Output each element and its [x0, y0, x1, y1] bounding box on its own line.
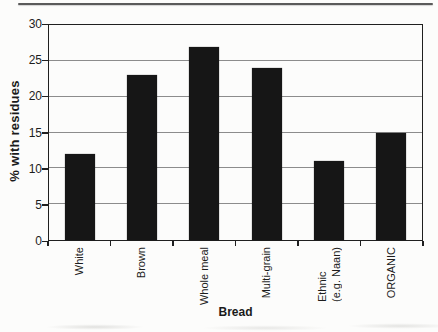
x-category-labels: WhiteBrownWhole mealMulti-grainEthnic (e…	[48, 247, 423, 305]
x-category-label-organic: ORGANIC	[385, 247, 399, 298]
x-category-label-ethnic-e-g-naan: Ethnic (e.g. Naan)	[316, 247, 343, 302]
scanned-chart-page: % with residues 051015202530 WhiteBrownW…	[0, 0, 438, 332]
plot-area	[48, 24, 423, 241]
y-axis: 051015202530	[0, 24, 48, 241]
x-category-label-brown: Brown	[135, 247, 149, 278]
x-axis-title: Bread	[48, 305, 423, 319]
bar-slot-multi-grain	[236, 25, 298, 240]
y-tick-label-30: 30	[14, 17, 42, 31]
bar-slot-brown	[111, 25, 173, 240]
y-tick-label-20: 20	[14, 89, 42, 103]
x-category-label-white: White	[73, 247, 87, 275]
x-boundary-tick	[172, 241, 174, 246]
gridline-10	[49, 167, 422, 168]
bar-slot-organic	[360, 25, 422, 240]
gridline-15	[49, 132, 422, 133]
bar-organic	[376, 133, 406, 241]
gridline-25	[49, 60, 422, 61]
y-tick-label-0: 0	[14, 234, 42, 248]
bar-slot-white	[49, 25, 111, 240]
x-boundary-tick	[110, 241, 112, 246]
x-label-slot-brown: Brown	[111, 247, 174, 305]
x-boundary-tick	[47, 241, 49, 246]
bar-brown	[127, 75, 157, 240]
x-axis: WhiteBrownWhole mealMulti-grainEthnic (e…	[48, 241, 423, 305]
x-boundary-tick	[360, 241, 362, 246]
x-label-slot-white: White	[48, 247, 111, 305]
bar-multi-grain	[252, 68, 282, 240]
x-label-slot-multi-grain: Multi-grain	[236, 247, 299, 305]
x-boundary-tick	[297, 241, 299, 246]
y-tick-label-25: 25	[14, 53, 42, 67]
x-category-label-multi-grain: Multi-grain	[260, 247, 274, 298]
scan-artifact	[0, 320, 438, 332]
x-boundary-tick	[422, 241, 424, 246]
gridline-20	[49, 96, 422, 97]
x-label-slot-ethnic-e-g-naan: Ethnic (e.g. Naan)	[298, 247, 361, 305]
x-boundary-tick	[235, 241, 237, 246]
page-top-rule	[18, 3, 433, 5]
x-label-slot-organic: ORGANIC	[361, 247, 424, 305]
y-tick-label-5: 5	[14, 198, 42, 212]
bar-slot-whole-meal	[173, 25, 235, 240]
bar-whole-meal	[189, 47, 219, 241]
bar-slot-ethnic-e-g-naan	[298, 25, 360, 240]
bar-ethnic-e-g-naan	[314, 161, 344, 240]
x-label-slot-whole-meal: Whole meal	[173, 247, 236, 305]
y-tick-label-15: 15	[14, 126, 42, 140]
y-tick-label-10: 10	[14, 162, 42, 176]
x-category-label-whole-meal: Whole meal	[198, 247, 212, 305]
gridline-5	[49, 203, 422, 204]
bar-white	[65, 154, 95, 240]
